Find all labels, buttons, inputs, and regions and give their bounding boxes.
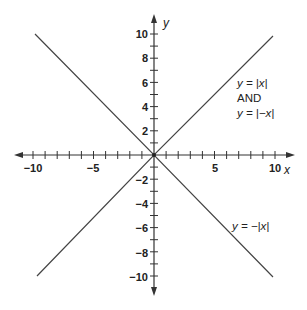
annotation-and: AND bbox=[237, 92, 261, 104]
x-axis-right-arrow-icon bbox=[286, 152, 295, 158]
y-axis-up-arrow-icon bbox=[151, 14, 157, 23]
x-axis-left-arrow-icon bbox=[14, 152, 23, 158]
origin-point bbox=[152, 153, 156, 157]
y-tick-label: −6 bbox=[135, 222, 148, 234]
x-tick-label: 10 bbox=[269, 162, 281, 174]
y-tick-label: 10 bbox=[136, 28, 148, 40]
x-tick-label: −10 bbox=[24, 162, 43, 174]
y-axis-down-arrow-icon bbox=[151, 287, 157, 296]
annotation-y-abs-neg-x: y = |−x| bbox=[236, 107, 274, 119]
absolute-value-graph: x y −10 −5 5 10 10 8 6 4 2 −2 −4 −6 −8 −… bbox=[0, 0, 307, 310]
y-tick-label: −10 bbox=[129, 271, 148, 283]
x-tick-label: 5 bbox=[212, 162, 218, 174]
annotation-y-neg-abs-x: y = −|x| bbox=[231, 220, 269, 232]
y-tick-label: 4 bbox=[142, 101, 149, 113]
y-tick-label: −2 bbox=[135, 174, 148, 186]
y-tick-label: 8 bbox=[142, 52, 148, 64]
y-tick-label: −4 bbox=[135, 198, 148, 210]
y-tick-label: 6 bbox=[142, 77, 148, 89]
y-axis-label: y bbox=[162, 16, 170, 30]
annotation-y-abs-x: y = |x| bbox=[236, 77, 268, 89]
x-tick-label: −5 bbox=[87, 162, 100, 174]
x-axis-label: x bbox=[283, 163, 291, 177]
y-tick-label: 2 bbox=[142, 125, 148, 137]
y-tick-label: −8 bbox=[135, 247, 148, 259]
